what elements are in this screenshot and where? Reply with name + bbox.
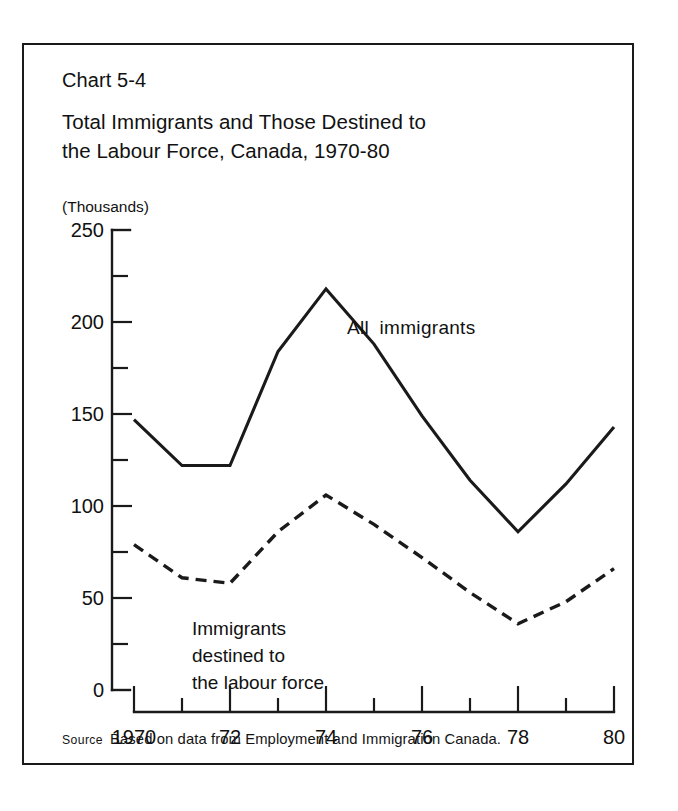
source-keyword: Source (62, 733, 103, 747)
y-tick-label: 50 (82, 587, 104, 609)
y-tick-label: 150 (71, 403, 104, 425)
x-tick-label: 80 (603, 726, 625, 748)
y-tick-label: 100 (71, 495, 104, 517)
chart-frame: Chart 5-4 Total Immigrants and Those Des… (22, 43, 634, 765)
x-tick-label: 78 (507, 726, 529, 748)
source-text: Based on data from Employment and Immigr… (110, 731, 501, 747)
chart-tick-labels: 25020015010050019707274767880 (71, 219, 626, 748)
chart-series (134, 289, 614, 624)
y-tick-label: 250 (71, 219, 104, 241)
source-note: SourceBased on data from Employment and … (62, 731, 501, 747)
chart-plot-area: 25020015010050019707274767880 All immigr… (24, 45, 636, 767)
chart-axes (112, 230, 614, 712)
annotation-labour-force-line2: destined to (192, 645, 285, 666)
annotation-labour-force-line1: Immigrants (192, 618, 286, 639)
annotation-all-immigrants: All immigrants (347, 317, 476, 338)
y-tick-label: 200 (71, 311, 104, 333)
chart-annotations: All immigrantsImmigrantsdestined tothe l… (192, 317, 476, 693)
series-line-2 (134, 495, 614, 624)
y-tick-label: 0 (93, 679, 104, 701)
annotation-labour-force-line3: the labour force (192, 672, 324, 693)
